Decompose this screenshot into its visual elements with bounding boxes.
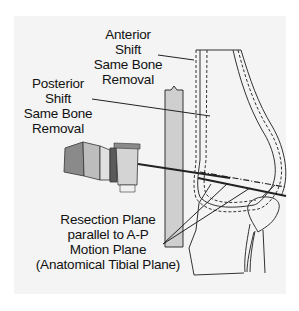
- saw-instrument: [64, 142, 140, 192]
- resection-plane-label: Resection Plane parallel to A-P Motion P…: [28, 212, 188, 272]
- anterior-line-2: Shift: [88, 42, 168, 57]
- resection-lines: [138, 164, 286, 196]
- resection-line-3: Motion Plane: [28, 242, 188, 257]
- posterior-line-3: Same Bone: [18, 106, 98, 121]
- posterior-shift-label: Posterior Shift Same Bone Removal: [18, 76, 98, 136]
- resection-line-2: parallel to A-P: [28, 227, 188, 242]
- anterior-shift-label: Anterior Shift Same Bone Removal: [88, 27, 168, 87]
- posterior-line-1: Posterior: [18, 76, 98, 91]
- resection-line-1: Resection Plane: [28, 212, 188, 227]
- posterior-line-2: Shift: [18, 91, 98, 106]
- posterior-line-4: Removal: [18, 121, 98, 136]
- anterior-line-4: Removal: [88, 72, 168, 87]
- anterior-line-1: Anterior: [88, 27, 168, 42]
- resection-line-4: (Anatomical Tibial Plane): [28, 257, 188, 272]
- anterior-line-3: Same Bone: [88, 57, 168, 72]
